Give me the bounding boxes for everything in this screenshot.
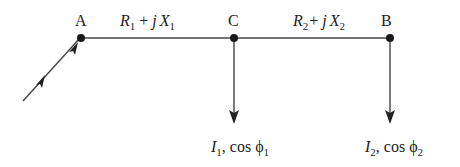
impedance-ac-label: R1+jX1 [119, 12, 175, 32]
circuit-diagram: A C B R1+jX1 R2+jX2 I1,cosϕ1 I2,cosϕ2 [0, 0, 460, 167]
load-b-label: I2,cosϕ2 [364, 138, 423, 158]
diagram-canvas: A C B R1+jX1 R2+jX2 I1,cosϕ1 I2,cosϕ2 [0, 0, 460, 167]
node-a [77, 34, 85, 42]
node-b [386, 34, 394, 42]
load-c-label: I1,cosϕ1 [210, 138, 269, 158]
node-c [230, 34, 238, 42]
node-b-label: B [381, 12, 392, 29]
impedance-cb-label: R2+jX2 [292, 12, 345, 32]
node-a-label: A [75, 12, 87, 29]
supply-line [23, 38, 80, 101]
node-c-label: C [228, 12, 239, 29]
